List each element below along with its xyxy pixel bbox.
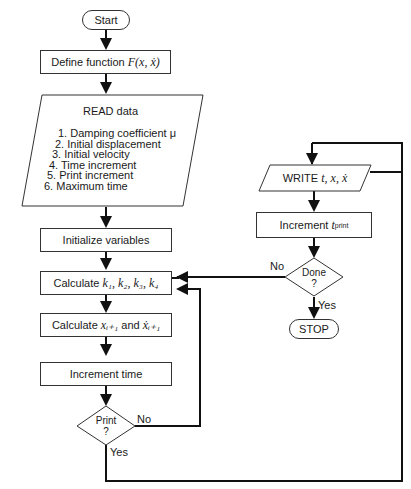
read-item: 5. Print increment xyxy=(47,170,176,181)
print-no-label: No xyxy=(137,413,151,425)
inc-print-label: Increment xyxy=(280,219,329,231)
done-line1: Done xyxy=(302,267,326,278)
inc-print-sub: print xyxy=(335,222,349,229)
init-label: Initialize variables xyxy=(63,234,150,246)
write-math: t, x, ẋ xyxy=(321,171,347,186)
done-yes-label: Yes xyxy=(318,299,336,311)
print-yes-label: Yes xyxy=(110,446,128,458)
done-line2: ? xyxy=(311,278,317,289)
initialize-variables-box: Initialize variables xyxy=(40,228,172,252)
read-item: 1. Damping coefficient μ xyxy=(58,128,176,139)
write-label: WRITE xyxy=(283,172,318,184)
write-text: WRITE t, x, ẋ xyxy=(262,166,368,190)
read-item: 6. Maximum time xyxy=(44,181,176,192)
increment-tprint-box: Increment tprint xyxy=(256,212,372,238)
print-line2: ? xyxy=(103,426,109,437)
calc-x-math2: ẋᵢ₊₁ xyxy=(143,318,160,333)
define-label: Define function xyxy=(51,56,124,68)
calc-x-label: Calculate xyxy=(52,319,98,331)
start-terminal: Start xyxy=(82,10,130,30)
start-label: Start xyxy=(94,14,117,26)
read-items: 1. Damping coefficient μ 2. Initial disp… xyxy=(44,128,176,191)
calculate-k-box: Calculate k₁, k₂, k₃, k₄ xyxy=(40,271,172,295)
define-function-box: Define function F(x, ẋ) xyxy=(40,50,171,74)
stop-terminal: STOP xyxy=(289,319,339,339)
stop-label: STOP xyxy=(299,323,329,335)
calculate-x-box: Calculate xᵢ₊₁ and ẋᵢ₊₁ xyxy=(40,313,172,337)
define-math: F(x, ẋ) xyxy=(128,55,160,70)
calc-x-math1: xᵢ₊₁ xyxy=(101,318,118,333)
inc-time-label: Increment time xyxy=(70,368,143,380)
read-item: 3. Initial velocity xyxy=(52,149,176,160)
read-title: READ data xyxy=(83,105,138,117)
calc-x-and: and xyxy=(121,319,139,331)
print-decision-text: Print ? xyxy=(86,412,126,440)
calc-k-label: Calculate xyxy=(54,277,100,289)
print-line1: Print xyxy=(96,415,117,426)
done-decision-text: Done ? xyxy=(294,264,334,292)
increment-time-box: Increment time xyxy=(40,362,172,386)
calc-k-math: k₁, k₂, k₃, k₄ xyxy=(102,276,158,291)
done-no-label: No xyxy=(270,260,284,272)
